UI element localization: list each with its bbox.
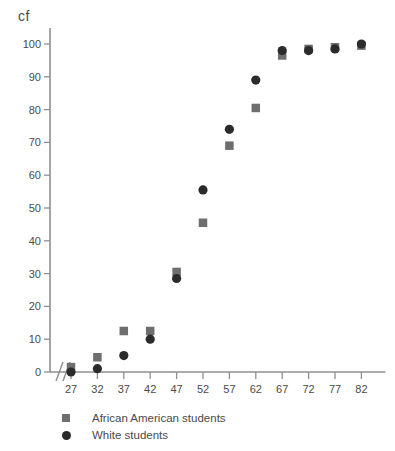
- data-point-marker: [172, 274, 181, 283]
- x-axis-tick-label: 67: [276, 383, 288, 395]
- x-axis-tick-label: 27: [65, 383, 77, 395]
- data-point-marker: [357, 39, 366, 48]
- x-axis-tick-label: 57: [223, 383, 235, 395]
- data-point-marker: [225, 141, 234, 150]
- plot-area: 0102030405060708090100273237424752576267…: [0, 0, 395, 451]
- data-point-marker: [146, 327, 155, 336]
- chart-legend: African American students White students: [62, 410, 362, 444]
- data-marker-layer: [66, 39, 366, 376]
- y-axis-tick-label: 0: [35, 366, 41, 378]
- x-axis-tick-label: 37: [118, 383, 130, 395]
- y-axis-tick-label: 60: [29, 169, 41, 181]
- legend-label: White students: [80, 429, 168, 441]
- data-point-marker: [252, 104, 260, 113]
- x-axis-tick-label: 47: [170, 383, 182, 395]
- data-point-marker: [198, 185, 207, 194]
- data-point-marker: [93, 353, 102, 362]
- square-marker-icon: [62, 414, 80, 422]
- y-axis-tick-label: 20: [29, 300, 41, 312]
- data-point-marker: [120, 327, 129, 336]
- y-axis-tick-label: 10: [29, 333, 41, 345]
- data-point-marker: [93, 364, 102, 373]
- y-axis-tick-label: 30: [29, 268, 41, 280]
- data-point-marker: [304, 46, 313, 55]
- data-point-marker: [225, 125, 234, 134]
- axis-layer: [44, 28, 385, 381]
- tick-label-layer: 0102030405060708090100273237424752576267…: [23, 38, 368, 395]
- data-point-marker: [278, 46, 287, 55]
- y-axis-tick-label: 50: [29, 202, 41, 214]
- x-axis-tick-label: 77: [329, 383, 341, 395]
- x-axis-tick-label: 52: [197, 383, 209, 395]
- legend-label: African American students: [80, 412, 226, 424]
- legend-item-white: White students: [62, 427, 362, 443]
- circle-marker-icon: [62, 431, 80, 440]
- x-axis-tick-label: 42: [144, 383, 156, 395]
- data-point-marker: [330, 44, 339, 53]
- y-axis-tick-label: 80: [29, 104, 41, 116]
- y-axis-tick-label: 90: [29, 71, 41, 83]
- data-point-marker: [66, 367, 75, 376]
- x-axis-tick-label: 62: [250, 383, 262, 395]
- data-point-marker: [199, 219, 208, 228]
- cumulative-frequency-chart: cf 0102030405060708090100273237424752576…: [0, 0, 395, 451]
- y-axis-tick-label: 40: [29, 235, 41, 247]
- data-point-marker: [146, 335, 155, 344]
- data-point-marker: [251, 75, 260, 84]
- x-axis-tick-label: 72: [302, 383, 314, 395]
- y-axis-tick-label: 100: [23, 38, 41, 50]
- y-axis-tick-label: 70: [29, 136, 41, 148]
- legend-item-african-american: African American students: [62, 410, 362, 426]
- data-point-marker: [119, 351, 128, 360]
- x-axis-tick-label: 82: [355, 383, 367, 395]
- x-axis-tick-label: 32: [91, 383, 103, 395]
